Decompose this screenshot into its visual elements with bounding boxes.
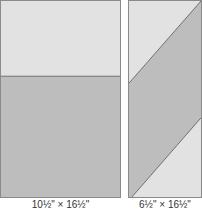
- dark-bottom-section: [1, 76, 120, 197]
- left-block-dimension-label: 10½" × 16½": [0, 199, 121, 210]
- left-block-diagram: [0, 0, 121, 198]
- left-block-fabric: [1, 1, 120, 197]
- right-block-diagram: [128, 0, 202, 198]
- right-block-dimension-label: 6½" × 16½": [128, 199, 202, 210]
- right-block-fabric: [129, 1, 201, 197]
- light-top-section: [1, 1, 120, 76]
